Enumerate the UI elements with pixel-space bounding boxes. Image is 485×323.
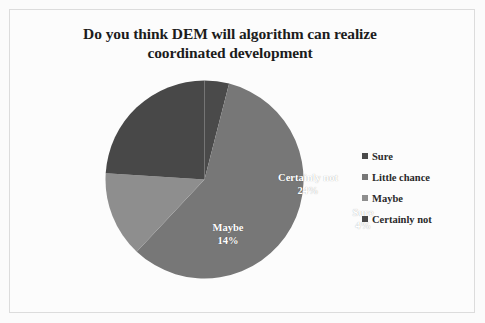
chart-title-line-2: coordinated development xyxy=(30,43,430,62)
legend-label-certainly-not: Certainly not xyxy=(372,214,432,225)
pie-slice-label-certainly-not: Certainly not 24% xyxy=(253,172,363,197)
legend-item-maybe: Maybe xyxy=(362,188,472,208)
pie-slice-label-maybe: Maybe 14% xyxy=(198,222,258,247)
legend-item-certainly-not: Certainly not xyxy=(362,209,472,229)
legend-swatch-icon-maybe xyxy=(362,195,368,201)
pie-slice-certainly-not xyxy=(106,80,205,179)
pie-slice-label-maybe-value: 14% xyxy=(198,235,258,248)
pie-chart: Sure 4% Little chance 58% Maybe 14% Cert… xyxy=(105,80,304,279)
pie-slice-label-certainly-not-name: Certainly not xyxy=(253,172,363,185)
legend-label-maybe: Maybe xyxy=(372,193,403,204)
legend-label-little-chance: Little chance xyxy=(372,172,430,183)
legend-item-little-chance: Little chance xyxy=(362,167,472,187)
chart-title: Do you think DEM will algorithm can real… xyxy=(30,24,430,62)
chart-legend: Sure Little chance Maybe Certainly not xyxy=(362,146,472,230)
legend-swatch-icon-certainly-not xyxy=(362,216,368,222)
pie-slice-label-maybe-name: Maybe xyxy=(198,222,258,235)
legend-swatch-icon-little-chance xyxy=(362,174,368,180)
chart-figure: Do you think DEM will algorithm can real… xyxy=(0,0,485,323)
legend-item-sure: Sure xyxy=(362,146,472,166)
chart-title-line-1: Do you think DEM will algorithm can real… xyxy=(30,24,430,43)
pie-slice-label-certainly-not-value: 24% xyxy=(253,185,363,198)
legend-label-sure: Sure xyxy=(372,151,393,162)
legend-swatch-icon-sure xyxy=(362,153,368,159)
